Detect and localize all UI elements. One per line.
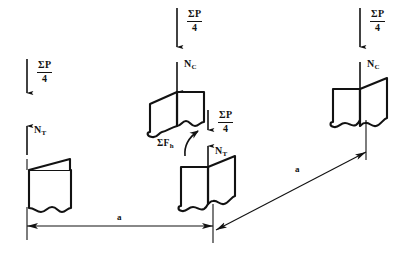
right-compression-subscript: C <box>375 63 380 71</box>
middle-load-label: ΣP 4 <box>187 9 202 34</box>
diagram-canvas <box>0 0 416 253</box>
left-reaction-symbol: N <box>34 124 41 135</box>
left-load-denominator: 4 <box>37 73 52 85</box>
middle-load-numerator: ΣP <box>187 9 202 22</box>
force-diagram: ΣP 4 NT ΣP 4 NC ΣFh ΣP 4 NT ΣP 4 <box>0 0 416 253</box>
shear-force-label: ΣFh <box>157 139 174 149</box>
shear-force-symbol: ΣF <box>157 138 170 148</box>
middle-lower-load-denominator: 4 <box>218 123 233 135</box>
right-compression-label: NC <box>367 59 379 69</box>
middle-lower-load-label: ΣP 4 <box>218 110 233 135</box>
middle-lower-block <box>179 156 236 211</box>
right-load-numerator: ΣP <box>370 9 385 22</box>
left-load-numerator: ΣP <box>37 60 52 73</box>
middle-lower-reaction-subscript: T <box>223 150 228 158</box>
left-block <box>29 159 71 212</box>
shear-force-arrow <box>185 131 198 156</box>
middle-compression-label: NC <box>184 59 196 69</box>
middle-lower-load-numerator: ΣP <box>218 110 233 123</box>
right-block <box>331 78 388 127</box>
middle-compression-subscript: C <box>192 63 197 71</box>
right-load-denominator: 4 <box>370 22 385 34</box>
middle-lower-reaction-label: NT <box>215 146 227 156</box>
middle-compression-symbol: N <box>184 58 191 69</box>
shear-force-subscript: h <box>170 142 174 150</box>
horizontal-dimension-label: a <box>117 213 122 222</box>
diagonal-dimension-line <box>216 152 366 230</box>
middle-upper-block <box>148 92 204 137</box>
middle-load-denominator: 4 <box>187 22 202 34</box>
diagonal-dimension-label: a <box>295 165 300 174</box>
left-load-label: ΣP 4 <box>37 60 52 85</box>
right-load-label: ΣP 4 <box>370 9 385 34</box>
right-compression-symbol: N <box>367 58 374 69</box>
left-reaction-label: NT <box>34 125 46 135</box>
middle-lower-reaction-symbol: N <box>215 145 222 156</box>
left-reaction-subscript: T <box>42 129 47 137</box>
